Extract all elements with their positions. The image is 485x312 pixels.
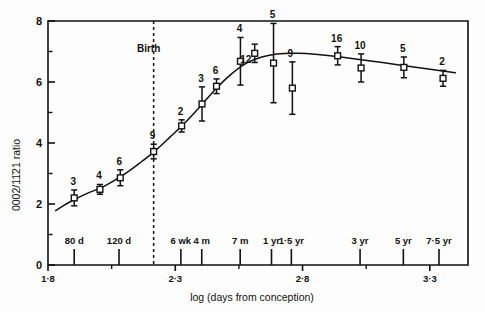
data-point-marker: [289, 85, 295, 91]
sample-size-label: 3: [198, 73, 204, 84]
sample-size-label: 2: [178, 106, 184, 117]
sample-size-label: 3: [70, 176, 76, 187]
sample-size-label: 9: [150, 130, 156, 141]
sample-size-label: 4: [237, 23, 243, 34]
y-tick-label: 2: [36, 198, 42, 210]
age-tick-label: 80 d: [65, 235, 84, 246]
data-point-marker: [97, 186, 103, 192]
sample-size-label: 4: [96, 170, 102, 181]
age-tick-labels: 80 d120 d6 wk4 m7 m1 yr1·5 yr3 yr5 yr7·5…: [65, 235, 452, 246]
data-point-marker: [335, 53, 341, 59]
data-point-marker: [358, 65, 364, 71]
data-point-marker: [401, 64, 407, 70]
fitted-curve-path: [56, 53, 456, 210]
x-axis-ticks: [48, 265, 430, 271]
age-tick-label: 7·5 yr: [426, 235, 452, 246]
y-axis-title-text: 0002/11̄21 ratio: [10, 139, 22, 211]
y-tick-label: 4: [36, 137, 43, 149]
sample-size-label: 12: [240, 54, 252, 65]
age-tick-label: 3 yr: [352, 235, 369, 246]
x-tick-label: 2·8: [296, 273, 310, 284]
age-tick-label: 4 m: [194, 235, 210, 246]
data-point-marker: [71, 195, 77, 201]
y-tick-label: 8: [36, 15, 42, 27]
data-point-marker: [214, 83, 220, 89]
age-tick-label: 1·5 yr: [279, 235, 305, 246]
data-point-marker: [440, 75, 446, 81]
sample-size-labels: 346923641259161052: [70, 9, 445, 187]
x-axis-tick-labels: 1·82·32·83·3: [41, 273, 437, 284]
sample-size-label: 5: [270, 9, 276, 20]
age-tick-label: 1 yr: [263, 235, 280, 246]
y-axis-title: 0002/11̄21 ratio: [10, 139, 22, 211]
fitted-curve: [56, 53, 456, 210]
y-tick-label: 6: [36, 76, 42, 88]
age-tick-marks: [74, 249, 439, 265]
y-axis-ticks: [48, 21, 55, 265]
sample-size-label: 16: [331, 33, 343, 44]
age-tick-label: 6 wk: [171, 235, 192, 246]
x-axis-title: log (days from conception): [190, 291, 314, 303]
x-tick-label: 2·3: [168, 273, 182, 284]
sample-size-label: 5: [400, 43, 406, 54]
age-tick-label: 7 m: [232, 235, 248, 246]
figure-container: 0002/11̄21 ratio log (days from concepti…: [0, 0, 485, 312]
error-bars: [71, 23, 446, 205]
data-point-marker: [199, 101, 205, 107]
data-point-marker: [252, 50, 258, 56]
data-markers: [71, 50, 446, 200]
birth-label: Birth: [137, 43, 160, 54]
data-point-marker: [271, 60, 277, 66]
data-point-marker: [179, 123, 185, 129]
data-point-marker: [151, 149, 157, 155]
age-tick-label: 120 d: [107, 235, 131, 246]
x-tick-label: 3·3: [423, 273, 437, 284]
data-point-marker: [117, 175, 123, 181]
sample-size-label: 6: [117, 156, 123, 167]
age-tick-label: 5 yr: [395, 235, 412, 246]
sample-size-label: 9: [288, 48, 294, 59]
sample-size-label: 2: [439, 56, 445, 67]
y-tick-label: 0: [36, 259, 42, 271]
birth-annotation: Birth: [137, 21, 160, 265]
x-tick-label: 1·8: [41, 273, 55, 284]
sample-size-label: 10: [355, 40, 367, 51]
y-axis-tick-labels: 02468: [36, 15, 43, 271]
sample-size-label: 6: [213, 65, 219, 76]
chart-canvas: 0002/11̄21 ratio log (days from concepti…: [0, 0, 485, 312]
